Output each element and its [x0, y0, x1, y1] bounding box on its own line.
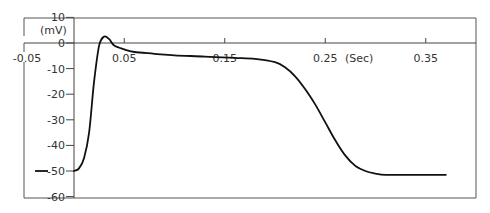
y-tick-label: -10 [47, 63, 65, 76]
y-tick-label: -30 [47, 114, 65, 127]
chart-canvas: 100-10-20-30-40-50-60 -0.050.050.150.250… [0, 0, 490, 213]
action-potential-chart: 100-10-20-30-40-50-60 -0.050.050.150.250… [0, 0, 490, 213]
x-tick-label: 0.25 [313, 52, 338, 65]
y-axis-label: (mV) [40, 24, 67, 37]
y-tick-label: 0 [58, 37, 65, 50]
y-tick-label: -50 [47, 165, 65, 178]
y-ticks: 100-10-20-30-40-50-60 [47, 11, 74, 203]
x-ticks: -0.050.050.150.250.35 [13, 38, 438, 65]
x-tick-label: 0.05 [112, 52, 137, 65]
y-tick-label: 10 [51, 11, 65, 24]
x-axis-label: (Sec) [345, 52, 373, 65]
y-tick-label: -40 [47, 139, 65, 152]
x-tick-label: -0.05 [13, 52, 41, 65]
y-tick-label: -60 [47, 191, 65, 204]
y-tick-label: -20 [47, 88, 65, 101]
x-tick-label: 0.35 [414, 52, 439, 65]
